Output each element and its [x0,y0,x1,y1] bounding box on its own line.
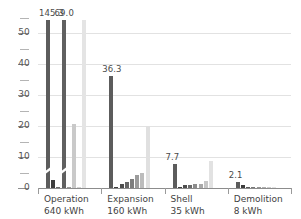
y-tick-label: 30 [18,90,30,99]
bar [62,20,66,188]
y-tick-label: 0 [24,183,30,192]
y-axis: 01020304050 [0,0,34,219]
bar-chart: 01020304050 145.369.036.37.72.1 Operatio… [0,0,301,219]
x-category-sublabel: 8 kWh [234,205,283,217]
x-category-sublabel: 35 kWh [171,205,205,217]
bar-group: 7.7 [165,18,228,188]
bar [209,161,213,188]
x-category-sublabel: 160 kWh [107,205,153,217]
x-category-label: Shell35 kWh [171,193,205,217]
axis-break-icon [44,164,52,175]
x-tick [228,188,229,194]
y-tick-minor [20,142,29,143]
y-tick-minor [20,49,29,50]
bar-value-label: 69.0 [55,9,74,18]
bar-value-label: 36.3 [102,65,121,74]
bar [51,180,55,188]
bar-value-label: 7.7 [166,153,180,162]
bar [109,76,113,188]
x-category-sublabel: 640 kWh [44,205,89,217]
bar [130,179,134,188]
y-tick-minor [20,173,29,174]
axis-break-icon [60,164,68,175]
x-category-name: Demolition [234,194,283,204]
bar-value-label: 2.1 [229,171,243,180]
x-category-label: Expansion160 kWh [107,193,153,217]
y-tick-minor [20,111,29,112]
bar [135,175,139,188]
x-tick [38,188,39,194]
plot-area: 145.369.036.37.72.1 [38,18,291,188]
x-category-name: Operation [44,194,89,204]
y-tick-minor [20,18,29,19]
bar [46,20,50,188]
bar-group: 36.3 [101,18,164,188]
bar-group: 2.1 [228,18,291,188]
bar [140,173,144,188]
y-tick-minor [20,80,29,81]
bar [82,20,86,188]
bar [146,126,150,188]
x-category-label: Operation640 kWh [44,193,89,217]
y-tick-label: 50 [18,28,30,37]
y-tick-label: 20 [18,121,30,130]
x-tick [291,188,292,194]
bar-group: 145.369.0 [38,18,101,188]
y-tick-label: 10 [18,152,30,161]
x-tick [165,188,166,194]
bar [72,124,76,188]
y-tick-label: 40 [18,59,30,68]
x-category-name: Shell [171,194,193,204]
bar [204,181,208,188]
x-category-label: Demolition8 kWh [234,193,283,217]
x-category-name: Expansion [107,194,153,204]
x-tick [101,188,102,194]
bar [173,164,177,188]
